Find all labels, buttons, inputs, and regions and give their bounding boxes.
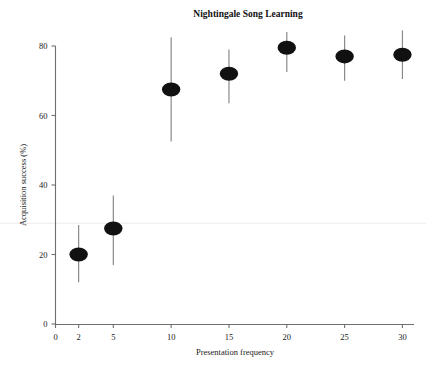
y-tick-label: 0 bbox=[43, 319, 47, 329]
y-tick-group: 020406080 bbox=[39, 41, 56, 329]
data-point-marker bbox=[220, 67, 238, 81]
data-point-marker bbox=[104, 221, 122, 235]
x-tick-label: 10 bbox=[167, 332, 176, 342]
x-tick-label: 20 bbox=[283, 332, 292, 342]
data-point-marker bbox=[393, 48, 411, 62]
marker-ellipse bbox=[220, 67, 238, 81]
data-point-marker bbox=[162, 82, 180, 96]
data-marker-group bbox=[69, 41, 411, 262]
chart-title: Nightingale Song Learning bbox=[193, 9, 303, 19]
marker-ellipse bbox=[69, 248, 87, 262]
y-tick-label: 40 bbox=[39, 180, 48, 190]
x-tick-label: 2 bbox=[77, 332, 81, 342]
y-tick-label: 20 bbox=[39, 250, 48, 260]
error-bar-group bbox=[79, 30, 403, 282]
chart-container: Nightingale Song Learning Presentation f… bbox=[0, 0, 426, 369]
x-tick-label: 25 bbox=[340, 332, 349, 342]
marker-ellipse bbox=[278, 41, 296, 55]
x-axis-title: Presentation frequency bbox=[196, 347, 275, 357]
data-point-marker bbox=[69, 248, 87, 262]
x-tick-label: 30 bbox=[398, 332, 407, 342]
marker-ellipse bbox=[162, 82, 180, 96]
y-tick-label: 80 bbox=[39, 41, 48, 51]
data-point-marker bbox=[278, 41, 296, 55]
y-axis-title: Acquisition success (%) bbox=[18, 144, 28, 226]
x-tick-label: 5 bbox=[111, 332, 115, 342]
x-tick-label: 15 bbox=[225, 332, 234, 342]
marker-ellipse bbox=[104, 221, 122, 235]
scatter-plot-with-error-bars: Nightingale Song Learning Presentation f… bbox=[0, 0, 426, 369]
marker-ellipse bbox=[335, 49, 353, 63]
marker-ellipse bbox=[393, 48, 411, 62]
y-tick-label: 60 bbox=[39, 111, 48, 121]
data-point-marker bbox=[335, 49, 353, 63]
x-tick-group: 0251015202530 bbox=[53, 324, 406, 342]
x-tick-label: 0 bbox=[53, 332, 57, 342]
